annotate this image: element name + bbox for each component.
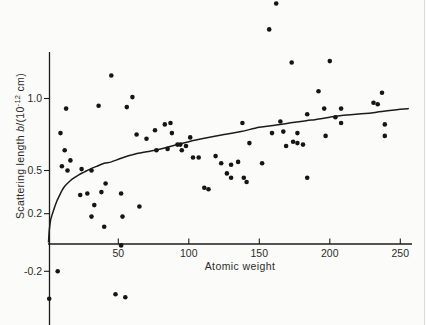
data-point — [119, 243, 124, 248]
data-point — [89, 214, 94, 219]
data-point — [64, 106, 69, 111]
data-point — [191, 155, 196, 160]
x-tick-label: 100 — [180, 247, 198, 259]
x-tick-label: 50 — [112, 247, 124, 259]
data-point — [383, 122, 388, 127]
scattering-length-chart: 501001502002501.00.50.2-0.2Atomic weight… — [0, 0, 426, 325]
data-point — [123, 295, 128, 300]
data-point — [270, 131, 275, 136]
data-point — [244, 180, 249, 185]
scatter-figure: 501001502002501.00.50.2-0.2Atomic weight… — [0, 0, 426, 325]
data-point — [119, 191, 124, 196]
data-point — [240, 121, 245, 126]
data-point — [242, 175, 247, 180]
data-point — [380, 90, 385, 95]
data-point — [163, 122, 168, 127]
data-point — [178, 142, 183, 147]
data-point — [202, 186, 207, 191]
data-point — [102, 224, 107, 229]
data-point — [134, 132, 139, 137]
data-point — [125, 105, 130, 110]
data-point — [168, 121, 173, 126]
data-point — [305, 112, 310, 117]
data-point — [85, 191, 90, 196]
data-point — [188, 135, 193, 140]
data-point — [260, 161, 265, 166]
data-point — [229, 162, 234, 167]
data-point — [289, 60, 294, 65]
data-point — [267, 27, 272, 32]
data-point — [371, 101, 376, 106]
y-tick-label: 1.0 — [27, 92, 42, 104]
data-point — [99, 190, 104, 195]
x-tick-label: 150 — [251, 247, 269, 259]
data-point — [62, 148, 67, 153]
data-point — [68, 158, 73, 163]
data-point — [322, 106, 327, 111]
data-point — [316, 89, 321, 94]
data-point — [247, 141, 252, 146]
data-point — [225, 171, 230, 176]
potential-scattering-curve — [49, 109, 409, 243]
data-point — [339, 121, 344, 126]
x-tick-label: 200 — [321, 247, 339, 259]
data-point — [274, 1, 279, 6]
data-point — [96, 103, 101, 108]
data-point — [170, 131, 175, 136]
data-point — [333, 115, 338, 120]
data-point — [184, 144, 189, 149]
data-point — [301, 142, 306, 147]
data-point — [60, 164, 65, 169]
data-point — [109, 73, 114, 78]
data-point — [328, 59, 333, 64]
y-tick-label: -0.2 — [24, 265, 42, 277]
data-point — [58, 131, 63, 136]
data-point — [113, 292, 118, 297]
data-point — [213, 154, 218, 159]
data-point — [153, 128, 158, 133]
data-point — [130, 95, 135, 100]
data-point — [375, 102, 380, 107]
data-point — [144, 137, 149, 142]
data-point — [219, 161, 224, 166]
x-axis-title: Atomic weight — [205, 260, 276, 272]
data-point — [323, 134, 328, 139]
page-edge-line — [424, 0, 425, 325]
data-point — [281, 129, 286, 134]
data-point — [79, 167, 84, 172]
data-point — [236, 160, 241, 165]
x-tick-label: 250 — [392, 247, 410, 259]
data-point — [180, 148, 185, 153]
data-point — [55, 269, 60, 274]
data-point — [295, 131, 300, 136]
data-point — [383, 134, 388, 139]
data-point — [278, 119, 283, 124]
y-tick-label: 0.5 — [27, 164, 42, 176]
data-point — [295, 141, 300, 146]
y-axis-title: Scattering length b/(10-12 cm) — [13, 73, 26, 219]
data-point — [165, 147, 170, 152]
data-point — [103, 181, 108, 186]
data-point — [92, 203, 97, 208]
data-point — [229, 175, 234, 180]
data-point — [339, 106, 344, 111]
data-point — [89, 168, 94, 173]
data-point — [137, 204, 142, 209]
data-point — [284, 144, 289, 149]
data-point — [65, 168, 70, 173]
data-point — [47, 296, 52, 301]
data-point — [120, 214, 125, 219]
data-point — [305, 175, 310, 180]
data-point — [196, 155, 201, 160]
y-tick-label: 0.2 — [27, 207, 42, 219]
data-point — [154, 148, 159, 153]
data-point — [291, 139, 296, 144]
data-point — [206, 187, 211, 192]
data-point — [78, 193, 83, 198]
